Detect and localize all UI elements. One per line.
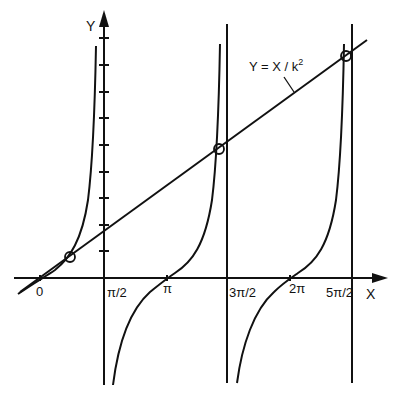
asymptotes (227, 24, 352, 383)
x-axis (14, 273, 388, 283)
tick-label-pi: π (163, 281, 172, 296)
y-axis (99, 10, 109, 385)
tick-label-5pi-half: 5π/2 (326, 285, 353, 300)
tangent-curves (18, 44, 344, 385)
tick-label-0: 0 (36, 284, 43, 299)
y-axis-arrow-icon (99, 10, 109, 27)
x-axis-arrow-icon (372, 273, 388, 283)
annotation-leader (284, 77, 294, 92)
tan-branch-2 (113, 44, 220, 385)
tick-label-pi-half: π/2 (107, 285, 127, 300)
x-axis-label: X (366, 286, 376, 302)
tick-label-3pi-half: 3π/2 (229, 285, 256, 300)
tan-branch-1 (18, 46, 96, 294)
tangent-line-intersection-diagram: Y X 0 π/2 π 3π/2 2π 5π/2 Y = X / k2 (0, 0, 401, 395)
y-axis-label: Y (86, 18, 96, 34)
tick-label-2pi: 2π (289, 281, 305, 296)
line-equation-label: Y = X / k2 (249, 57, 303, 74)
